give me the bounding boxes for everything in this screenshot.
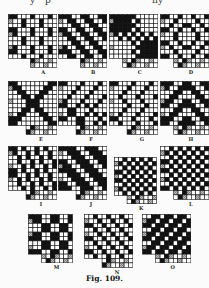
draft-label-m: M [52, 264, 62, 270]
weave-grid-icon [58, 81, 107, 135]
draft-label-e: E [36, 136, 46, 142]
weave-grid-icon [84, 214, 133, 268]
weave-grid-icon [142, 214, 191, 263]
draft-label-b: B [88, 69, 98, 75]
weave-grid-icon [58, 14, 107, 68]
cut-glyph: y [30, 0, 35, 5]
draft-label-k: K [136, 205, 146, 211]
cut-glyph: y [158, 0, 163, 5]
weave-draft-l [160, 146, 209, 200]
cut-off-heading-text: y p n y [0, 0, 209, 6]
weave-draft-d [160, 14, 209, 68]
cut-glyph: n [152, 0, 158, 5]
weave-grid-icon [109, 14, 158, 68]
draft-label-i: I [36, 201, 46, 207]
weave-draft-a [8, 14, 57, 68]
weave-draft-c [109, 14, 158, 68]
weave-draft-f [58, 81, 107, 135]
weave-grid-icon [109, 81, 158, 135]
weave-grid-icon [28, 214, 73, 263]
weave-draft-m [28, 214, 73, 263]
draft-label-d: D [186, 69, 196, 75]
weave-grid-icon [114, 157, 157, 204]
weave-draft-n [84, 214, 133, 268]
weave-draft-e [8, 81, 57, 135]
weave-draft-j [58, 146, 107, 200]
draft-label-h: H [186, 136, 196, 142]
cut-glyph: p [45, 0, 51, 5]
weave-draft-h [160, 81, 209, 135]
draft-label-c: C [135, 69, 145, 75]
draft-label-g: G [137, 136, 147, 142]
weave-grid-icon [8, 14, 57, 68]
weave-draft-g [109, 81, 158, 135]
draft-label-o: O [168, 264, 178, 270]
weave-grid-icon [160, 81, 209, 135]
weave-draft-k [114, 157, 157, 204]
draft-label-f: F [86, 136, 96, 142]
weave-grid-icon [160, 14, 209, 68]
weave-draft-i [8, 146, 57, 200]
weave-draft-o [142, 214, 191, 263]
weave-grid-icon [8, 146, 57, 200]
draft-label-l: L [186, 201, 196, 207]
figure-caption: Fig. 109. [0, 274, 209, 283]
weave-grid-icon [160, 146, 209, 200]
draft-label-j: J [86, 201, 96, 207]
weave-draft-b [58, 14, 107, 68]
draft-label-a: A [38, 69, 48, 75]
weave-grid-icon [58, 146, 107, 200]
weave-grid-icon [8, 81, 57, 135]
